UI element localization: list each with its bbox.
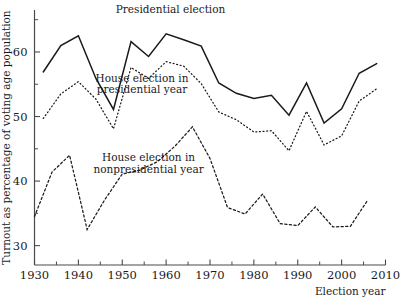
annotation-house-presidential-l1: House election in (96, 72, 189, 84)
y-axis-title: Turnout as percentage of voting age popu… (0, 10, 12, 265)
x-tick-label: 1930 (20, 268, 49, 282)
series-house-nonpresidential-year (35, 127, 368, 230)
annotation-house-nonpresidential-l2: nonpresidential year (93, 163, 204, 175)
y-tick-label: 50 (13, 110, 28, 124)
series-presidential (43, 34, 376, 123)
turnout-line-chart: 3040506019301940195019601970198019902000… (0, 0, 416, 305)
chart-figure: 3040506019301940195019601970198019902000… (0, 0, 416, 305)
x-tick-label: 2010 (371, 268, 400, 282)
series-house-presidential-year (43, 62, 376, 151)
x-tick-label: 1960 (151, 268, 180, 282)
x-tick-label: 1980 (239, 268, 268, 282)
y-tick-label: 40 (13, 174, 28, 188)
y-tick-label: 30 (13, 239, 28, 253)
annotation-house-nonpresidential-l1: House election in (102, 151, 195, 163)
x-tick-label: 1990 (283, 268, 312, 282)
annotation-house-presidential-l2: presidential year (97, 83, 188, 95)
x-tick-label: 1970 (195, 268, 224, 282)
x-axis-title: Election year (315, 285, 387, 297)
x-tick-label: 1950 (108, 268, 137, 282)
annotation-presidential: Presidential election (116, 3, 226, 15)
y-tick-label: 60 (13, 45, 28, 59)
x-tick-label: 1940 (64, 268, 93, 282)
x-tick-label: 2000 (327, 268, 356, 282)
